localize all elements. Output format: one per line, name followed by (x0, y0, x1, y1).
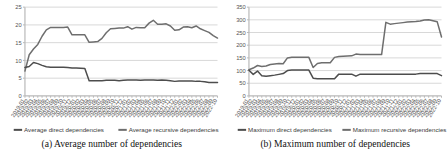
legend-item[interactable]: Maximum recursive dependencies (342, 126, 446, 133)
y-tick-label: 150 (236, 55, 246, 61)
y-tick-label: 250 (236, 30, 246, 36)
chart-a-svg: 05101520252019-012019-022019-032019-0420… (0, 0, 224, 138)
y-tick-label: 20 (15, 22, 21, 28)
legend-item[interactable]: Maximum direct dependencies (237, 126, 331, 133)
chart-b-plot: 0501001502002503003502019-012019-022019-… (224, 0, 447, 138)
series-line (248, 70, 441, 79)
y-tick-label: 300 (236, 17, 246, 23)
y-tick-label: 25 (15, 4, 21, 10)
legend-label: Average direct dependencies (24, 126, 104, 133)
caption-a: (a) Average number of dependencies (42, 139, 182, 149)
series-line (25, 63, 218, 83)
caption-b: (b) Maximum number of dependencies (260, 139, 410, 149)
y-tick-label: 100 (236, 68, 246, 74)
legend-item[interactable]: Average direct dependencies (14, 126, 104, 133)
y-tick-label: 5 (19, 75, 22, 81)
panel-b: 0501001502002503003502019-012019-022019-… (224, 0, 447, 168)
y-tick-label: 10 (15, 58, 21, 64)
series-line (25, 20, 218, 71)
panel-a: 05101520252019-012019-022019-032019-0420… (0, 0, 224, 168)
y-tick-label: 200 (236, 42, 246, 48)
dependency-figure: 05101520252019-012019-022019-032019-0420… (0, 0, 447, 168)
legend-item[interactable]: Average recursive dependencies (118, 126, 218, 133)
legend-label: Average recursive dependencies (129, 126, 219, 133)
legend-label: Maximum recursive dependencies (352, 126, 446, 133)
y-tick-label: 15 (15, 40, 21, 46)
chart-b-svg: 0501001502002503003502019-012019-022019-… (224, 0, 447, 138)
chart-a-plot: 05101520252019-012019-022019-032019-0420… (0, 0, 224, 138)
y-tick-label: 350 (236, 4, 246, 10)
y-tick-label: 50 (239, 80, 245, 86)
legend-label: Maximum direct dependencies (248, 126, 332, 133)
